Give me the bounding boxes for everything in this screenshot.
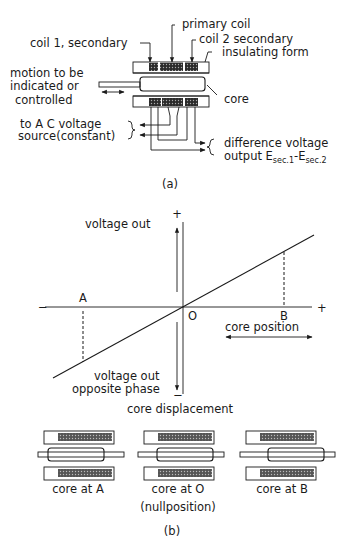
y-minus: − <box>173 388 183 402</box>
output-brace <box>207 139 214 155</box>
y-label-top: voltage out <box>85 217 151 231</box>
point-a: A <box>79 291 87 305</box>
leader-form <box>205 52 212 62</box>
position-o-label: core at O <box>152 482 205 496</box>
label-motion-2: indicated or <box>10 79 79 93</box>
position-o-sublabel: (nullposition) <box>140 500 216 514</box>
x-label: core position <box>225 320 299 334</box>
position-o <box>138 431 224 480</box>
characteristic-line <box>53 235 314 378</box>
y-plus: + <box>172 207 182 221</box>
transformer-body <box>99 62 209 107</box>
leader-primary <box>172 25 175 62</box>
diff-sub2: sec.2 <box>305 156 326 165</box>
label-motion-1: motion to be <box>10 66 84 80</box>
svg-text:output Esec.1-Esec.2: output Esec.1-Esec.2 <box>224 149 327 165</box>
label-core: core <box>224 92 249 106</box>
position-b-label: core at B <box>256 482 308 496</box>
figure-b-graph: + voltage out − + A B O core position vo… <box>38 207 327 416</box>
position-a <box>38 431 124 480</box>
diff-output-prefix: output E <box>224 149 273 163</box>
origin-label: O <box>188 309 197 323</box>
diff-minus: -E <box>294 149 305 163</box>
leader-coil1 <box>140 43 150 62</box>
label-motion-3: controlled <box>15 93 72 107</box>
label-primary-coil: primary coil <box>182 17 250 31</box>
y-label-bottom-2: opposite phase <box>72 382 160 396</box>
caption-a: (a) <box>162 177 178 191</box>
position-a-label: core at A <box>52 482 104 496</box>
label-coil2-secondary: coil 2 secondary <box>199 32 293 46</box>
label-ac-source-2: source(constant) <box>18 129 115 143</box>
x-plus: + <box>317 301 327 315</box>
label-diff-2: output Esec.1-Esec.2 <box>224 149 327 165</box>
label-coil1-secondary: coil 1, secondary <box>30 36 128 50</box>
source-brace <box>128 121 135 139</box>
graph-title: core displacement <box>127 402 234 416</box>
leader-coil2 <box>192 40 196 62</box>
label-insulating-form: insulating form <box>222 45 309 59</box>
leader-core <box>207 85 217 95</box>
label-diff-1: difference voltage <box>224 136 328 150</box>
position-b <box>240 431 335 480</box>
wiring <box>140 107 205 150</box>
caption-b: (b) <box>164 524 180 538</box>
y-label-bottom-1: voltage out <box>94 369 160 383</box>
x-minus: − <box>38 300 48 314</box>
figure-a: primary coil coil 1, secondary coil 2 se… <box>10 17 328 191</box>
lvdt-diagram: primary coil coil 1, secondary coil 2 se… <box>0 0 360 545</box>
diff-sub1: sec.1 <box>273 156 294 165</box>
